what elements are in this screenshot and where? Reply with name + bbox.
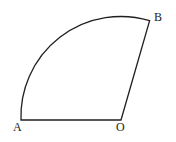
vertex-label-o: O [116,121,125,133]
vertex-label-b: B [154,11,162,23]
vertex-label-a: A [13,121,22,133]
sector-diagram-svg [0,0,176,142]
sector-outline-path [21,17,150,120]
geometry-figure: A O B [0,0,176,142]
